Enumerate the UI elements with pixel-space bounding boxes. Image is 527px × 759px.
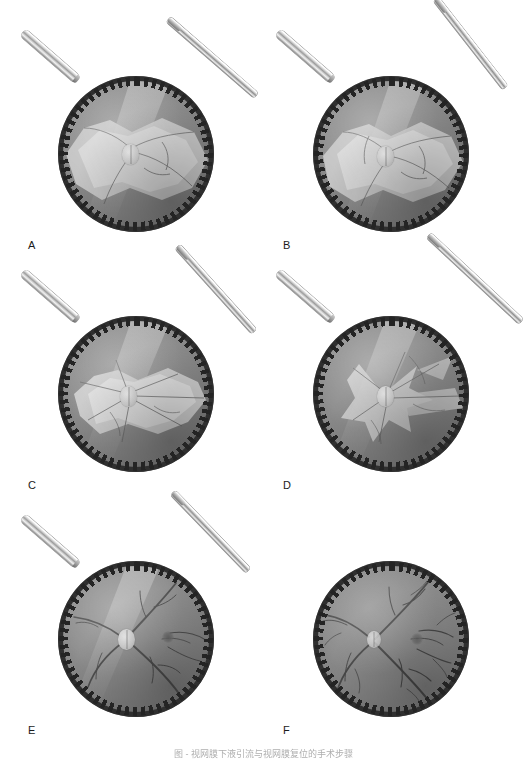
vitreous-cannula xyxy=(166,17,258,98)
panel-e: E xyxy=(6,499,261,744)
panel-a: A xyxy=(6,14,261,259)
globe-shading xyxy=(58,561,214,717)
globe-shading xyxy=(313,561,469,717)
vitreous-cannula xyxy=(170,490,250,573)
macula xyxy=(162,631,174,643)
illumination-beam xyxy=(327,316,423,472)
fundus-view-e xyxy=(58,561,214,717)
panel-label-c: C xyxy=(28,479,36,491)
illumination-beam xyxy=(68,561,162,717)
panel-c: C xyxy=(6,254,261,499)
panel-label-b: B xyxy=(283,239,291,251)
retinal-vessel-tree xyxy=(313,561,469,717)
panel-d: D xyxy=(261,254,516,499)
panel-label-e: E xyxy=(28,724,36,736)
panel-label-f: F xyxy=(283,724,290,736)
fundus-view-b xyxy=(313,76,469,232)
panel-label-d: D xyxy=(283,479,291,491)
fundus-globe xyxy=(313,316,469,472)
panel-f: F xyxy=(261,499,516,744)
vitreous-cannula xyxy=(433,0,507,90)
fundus-globe xyxy=(313,561,469,717)
figure-sheet: A xyxy=(0,0,527,759)
fundus-globe xyxy=(313,76,469,232)
optic-disc xyxy=(118,629,135,650)
vitreous-cannula xyxy=(175,244,256,333)
optic-disc xyxy=(122,144,139,165)
fundus-view-f xyxy=(313,561,469,717)
fundus-globe xyxy=(58,561,214,717)
figure-caption: 图 - 视网膜下液引流与视网膜复位的手术步骤 xyxy=(0,747,527,759)
fundus-view-a xyxy=(58,76,214,232)
optic-disc xyxy=(377,146,394,167)
optic-disc xyxy=(120,386,137,407)
fundus-globe xyxy=(58,316,214,472)
optic-disc xyxy=(377,386,394,407)
fundus-globe xyxy=(58,76,214,232)
macula xyxy=(411,633,423,645)
panel-b: B xyxy=(261,14,516,259)
optic-disc xyxy=(367,631,381,648)
panel-label-a: A xyxy=(28,239,36,251)
fundus-view-c xyxy=(58,316,214,472)
retinal-vessel-tree xyxy=(58,561,214,717)
fundus-view-d xyxy=(313,316,469,472)
